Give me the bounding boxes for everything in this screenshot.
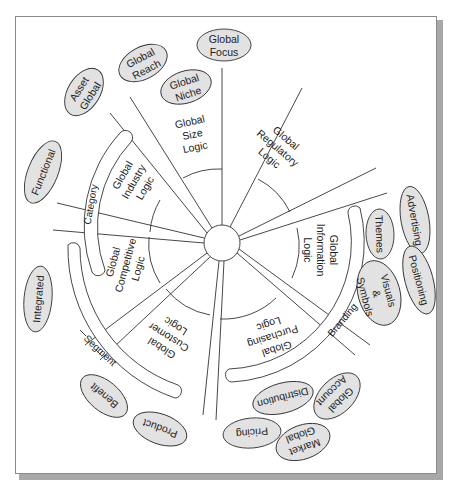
svg-text:Global: Global <box>328 235 340 265</box>
node-themes: Themes <box>365 209 395 260</box>
svg-text:Global: Global <box>209 33 239 45</box>
logic-global-competitive: Global Competitive Logic <box>100 233 151 297</box>
logic-global-size: Global Size Logic <box>174 112 212 155</box>
node-pricing: Pricing <box>222 416 282 451</box>
svg-text:Themes: Themes <box>373 215 386 253</box>
svg-text:Logic: Logic <box>302 237 314 262</box>
node-distribution: Distribution <box>249 375 317 420</box>
logic-global-customer: Global Customer Logic <box>139 309 198 366</box>
node-integrated: Integrated <box>21 265 55 333</box>
node-market-global: Market Global <box>271 416 335 467</box>
node-global-account: Global Account <box>305 364 369 428</box>
node-product: Product <box>129 405 192 452</box>
node-functional: Functional <box>17 136 70 208</box>
logic-global-information: Global Information Logic <box>302 224 340 277</box>
svg-text:Information: Information <box>315 224 327 277</box>
center-hub <box>204 225 240 261</box>
node-global-focus: Global Focus <box>197 29 251 61</box>
node-asset-global: Asset Global <box>57 61 112 122</box>
logic-global-regulatory: Global Regulatory Logic <box>246 117 310 179</box>
node-global-reach: Global Reach <box>113 37 174 90</box>
node-benefit: Benefit <box>73 367 135 426</box>
node-global-niche: Global Niche <box>156 64 215 111</box>
svg-text:Focus: Focus <box>210 46 239 58</box>
node-positioning: Positioning <box>396 243 441 318</box>
logic-wheel-diagram: Category Segment Branding Global Size Lo… <box>0 0 456 492</box>
node-advertising: Advertising <box>395 184 434 256</box>
